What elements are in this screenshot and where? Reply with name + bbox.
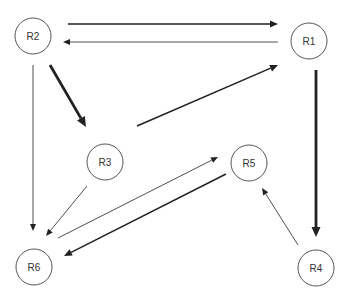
node-r2: R2 [15,18,51,54]
edge-line [137,68,271,126]
edge-r4-to-r5 [262,188,298,245]
node-r3: R3 [87,144,123,180]
edge-line [50,186,87,231]
nodes-group: R1R2R3R4R5R6 [15,18,334,286]
arrowhead-icon [46,229,53,236]
node-r6: R6 [16,249,52,285]
edge-r3-to-r6 [46,186,87,236]
network-diagram: R1R2R3R4R5R6 [0,0,352,299]
node-label: R3 [99,157,112,168]
edge-line [50,65,81,118]
edge-r2-to-r6 [30,65,36,231]
arrowhead-icon [270,21,278,28]
node-label: R5 [243,158,256,169]
edge-r2-to-r3 [50,65,86,127]
edge-r1-to-r2 [63,39,278,45]
edge-r2-to-r1 [68,21,278,28]
arrowhead-icon [63,39,70,45]
edge-r5-to-r6 [64,174,226,256]
node-r4: R4 [298,250,334,286]
node-label: R1 [303,36,316,47]
node-r5: R5 [231,145,267,181]
edge-r3-to-r1 [137,65,278,126]
edge-line [71,174,226,252]
node-label: R4 [310,263,323,274]
edges-group [30,21,321,257]
arrowhead-icon [312,227,321,237]
edge-r6-to-r5 [58,157,218,238]
edge-line [266,194,298,245]
arrowhead-icon [262,188,268,196]
edge-r1-to-r4 [312,70,321,237]
node-label: R6 [28,262,41,273]
node-label: R2 [27,31,40,42]
arrowhead-icon [30,224,36,231]
edge-line [58,160,212,238]
node-r1: R1 [291,23,327,59]
